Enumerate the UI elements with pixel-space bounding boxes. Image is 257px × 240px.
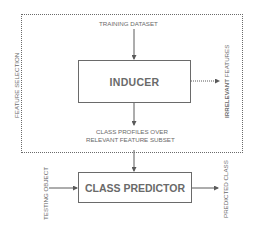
- class-profiles-label-line2: RELEVANT FEATURE SUBSET: [86, 136, 175, 143]
- inducer-label: INDUCER: [110, 76, 160, 88]
- feature-selection-label: FEATURE SELECTION: [13, 53, 20, 118]
- predicted-class-label: PREDICTED CLASS: [222, 160, 229, 218]
- class-predictor-box: CLASS PREDICTOR: [78, 172, 192, 203]
- irrelevant-rest: FEATURES: [223, 45, 230, 79]
- class-profiles-label-line1: CLASS PROFILES OVER: [96, 128, 168, 135]
- irrelevant-bold: IRRELEVANT: [223, 79, 230, 118]
- class-predictor-label: CLASS PREDICTOR: [85, 182, 185, 194]
- inducer-box: INDUCER: [78, 60, 191, 103]
- irrelevant-features-label: IRRELEVANT FEATURES: [223, 45, 230, 118]
- testing-object-label: TESTING OBJECT: [42, 167, 49, 220]
- training-dataset-label: TRAINING DATASET: [99, 20, 158, 27]
